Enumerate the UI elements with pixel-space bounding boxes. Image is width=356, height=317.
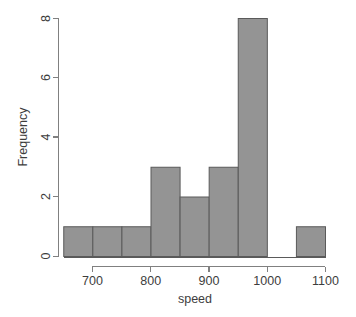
x-tick-label-800: 800 — [140, 274, 161, 288]
histogram-plot: 0 2 4 6 8 Frequency 700 800 900 1000 110… — [0, 0, 356, 317]
y-axis-title: Frequency — [16, 107, 30, 167]
x-axis: 700 800 900 1000 1100 speed — [82, 267, 339, 307]
histogram-bar — [122, 227, 151, 257]
x-tick-label-700: 700 — [82, 274, 103, 288]
bars-group — [64, 19, 326, 258]
x-tick-label-1100: 1100 — [312, 274, 339, 288]
histogram-bar — [64, 227, 93, 257]
histogram-bar — [296, 227, 325, 257]
histogram-bar — [151, 167, 180, 256]
histogram-bar — [209, 167, 238, 256]
histogram-bar — [93, 227, 122, 257]
y-tick-label-2: 2 — [39, 193, 53, 200]
histogram-bar — [180, 197, 209, 257]
histogram-bar — [238, 19, 267, 257]
plot-canvas: 0 2 4 6 8 Frequency 700 800 900 1000 110… — [0, 0, 356, 317]
y-axis: 0 2 4 6 8 Frequency — [16, 15, 58, 260]
y-tick-label-6: 6 — [39, 74, 53, 81]
y-tick-label-0: 0 — [39, 252, 53, 259]
x-tick-label-1000: 1000 — [253, 274, 281, 288]
x-axis-title: speed — [178, 292, 212, 306]
y-tick-label-8: 8 — [39, 15, 53, 22]
y-tick-label-4: 4 — [39, 133, 53, 140]
x-tick-label-900: 900 — [199, 274, 220, 288]
